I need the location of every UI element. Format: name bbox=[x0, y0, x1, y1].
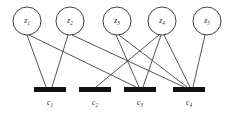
variable-label-subscript: 3 bbox=[117, 20, 120, 26]
variable-label-subscript: 2 bbox=[70, 20, 73, 26]
check-node-label-c4: c4 bbox=[186, 99, 192, 107]
check-node-label-c1: c1 bbox=[47, 99, 53, 107]
check-node-c4 bbox=[173, 87, 205, 92]
check-label-subscript: 2 bbox=[96, 102, 99, 108]
edge-z1-c3 bbox=[29, 35, 136, 87]
variable-label-subscript: 5 bbox=[207, 20, 210, 26]
edge-z4-c2 bbox=[96, 35, 159, 87]
check-node-label-c3: c3 bbox=[137, 99, 143, 107]
edge-z1-c1 bbox=[27, 35, 46, 87]
edge-z5-c4 bbox=[193, 35, 205, 87]
variable-node-label-z2: z2 bbox=[67, 17, 73, 25]
check-node-label-c2: c2 bbox=[92, 99, 98, 107]
variable-label-subscript: 1 bbox=[27, 20, 30, 26]
check-node-c1 bbox=[34, 87, 66, 92]
check-label-base: c bbox=[92, 98, 95, 107]
variable-label-subscript: 4 bbox=[162, 20, 165, 26]
edge-z2-c1 bbox=[52, 35, 68, 87]
check-node-c3 bbox=[124, 87, 156, 92]
check-label-subscript: 3 bbox=[141, 102, 144, 108]
check-label-subscript: 4 bbox=[190, 102, 193, 108]
check-label-base: c bbox=[186, 98, 189, 107]
edge-z4-c3 bbox=[143, 35, 161, 87]
variable-node-label-z1: z1 bbox=[24, 17, 30, 25]
check-label-base: c bbox=[137, 98, 140, 107]
variable-node-label-z3: z3 bbox=[114, 17, 120, 25]
check-label-subscript: 1 bbox=[51, 102, 54, 108]
check-nodes-layer bbox=[34, 87, 205, 92]
tanner-graph-figure: c1c2c3c4z1z2z3z4z5 bbox=[0, 0, 237, 116]
edges-layer bbox=[27, 35, 205, 87]
check-node-c2 bbox=[79, 87, 111, 92]
variable-node-label-z5: z5 bbox=[204, 17, 210, 25]
variable-node-label-z4: z4 bbox=[159, 17, 165, 25]
check-label-base: c bbox=[47, 98, 50, 107]
